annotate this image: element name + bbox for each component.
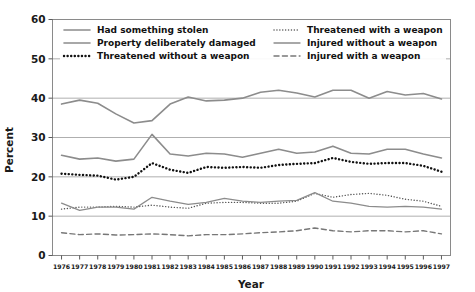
y-tick-label-0: 0 <box>38 249 45 261</box>
x-tick-label-1989: 1989 <box>288 263 305 270</box>
x-tick-label-1987: 1987 <box>252 263 269 270</box>
legend-label-3: Threatened with a weapon <box>307 25 443 35</box>
y-tick-label-60: 60 <box>31 13 46 25</box>
x-tick-label-1995: 1995 <box>397 263 414 270</box>
legend-label-2: Threatened without a weapon <box>97 51 250 61</box>
x-tick-label-1997: 1997 <box>433 263 450 270</box>
x-tick-label-1978: 1978 <box>89 263 106 270</box>
x-tick-label-1980: 1980 <box>125 263 143 270</box>
x-tick-label-1985: 1985 <box>216 263 233 270</box>
x-tick-label-1979: 1979 <box>107 263 124 270</box>
legend-label-4: Injured without a weapon <box>307 38 437 48</box>
x-tick-label-1981: 1981 <box>143 263 160 270</box>
chart-container: 0102030405060 19761977197819791980198119… <box>0 0 475 292</box>
y-tick-label-20: 20 <box>31 171 46 183</box>
x-tick-label-1984: 1984 <box>198 263 216 270</box>
legend-label-1: Property deliberately damaged <box>97 38 256 48</box>
x-tick-label-1996: 1996 <box>415 263 432 270</box>
x-tick-label-1982: 1982 <box>161 263 178 270</box>
y-axis-label: Percent <box>3 127 15 173</box>
line-chart: 0102030405060 19761977197819791980198119… <box>0 0 475 292</box>
x-tick-label-1992: 1992 <box>342 263 359 270</box>
x-tick-label-1994: 1994 <box>379 263 397 270</box>
legend-label-0: Had something stolen <box>97 25 208 35</box>
x-tick-label-1977: 1977 <box>71 263 88 270</box>
x-tick-label-1986: 1986 <box>234 263 251 270</box>
x-tick-label-1988: 1988 <box>270 263 287 270</box>
y-tick-label-30: 30 <box>31 131 46 143</box>
x-tick-label-1991: 1991 <box>324 263 341 270</box>
y-tick-label-10: 10 <box>31 210 46 222</box>
chart-legend: Had something stolenProperty deliberatel… <box>60 22 446 74</box>
x-tick-label-1976: 1976 <box>53 263 70 270</box>
x-tick-label-1993: 1993 <box>360 263 377 270</box>
x-axis-label: Year <box>237 278 265 290</box>
x-tick-label-1990: 1990 <box>306 263 324 270</box>
x-tick-label-1983: 1983 <box>180 263 197 270</box>
y-tick-label-50: 50 <box>31 53 46 65</box>
legend-label-5: Injured with a weapon <box>307 51 420 61</box>
y-tick-label-40: 40 <box>31 92 46 104</box>
